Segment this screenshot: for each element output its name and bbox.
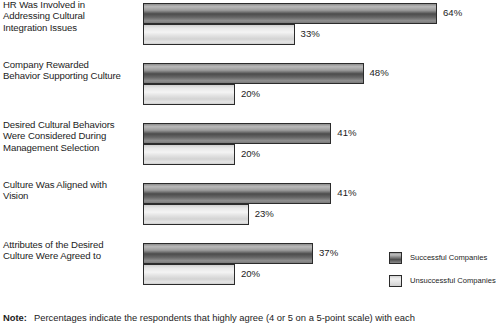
category-label: HR Was Involved inAddressing CulturalInt…	[3, 0, 139, 33]
bar-value-label: 23%	[255, 208, 274, 220]
category-label-line: Attributes of the Desired	[3, 239, 139, 250]
legend-label-unsuccessful: Unsuccessful Companies	[410, 275, 496, 286]
bar-successful[interactable]	[143, 63, 364, 84]
bar-value-label: 20%	[241, 268, 260, 280]
category-label-line: Addressing Cultural	[3, 10, 139, 21]
category-group: Desired Cultural BehaviorsWere Considere…	[0, 120, 496, 166]
legend-item-successful[interactable]: Successful Companies	[389, 251, 494, 274]
bar-unsuccessful[interactable]	[143, 24, 295, 45]
bar-value-label: 64%	[443, 7, 462, 19]
legend-label-successful: Successful Companies	[410, 252, 487, 263]
category-label-line: Culture Was Aligned with	[3, 179, 139, 190]
category-label-line: Behavior Supporting Culture	[3, 70, 139, 81]
chart-legend: Successful Companies Unsuccessful Compan…	[389, 251, 494, 297]
bar-unsuccessful[interactable]	[143, 204, 249, 225]
note-text: Percentages indicate the respondents tha…	[34, 312, 415, 323]
bar-successful[interactable]	[143, 3, 437, 24]
category-group: HR Was Involved inAddressing CulturalInt…	[0, 0, 496, 46]
category-label: Company RewardedBehavior Supporting Cult…	[3, 59, 139, 82]
bar-successful[interactable]	[143, 183, 331, 204]
bar-value-label: 20%	[241, 148, 260, 160]
bar-chart-figure: HR Was Involved inAddressing CulturalInt…	[0, 0, 496, 334]
category-label-line: Were Considered During	[3, 130, 139, 141]
bar-value-label: 37%	[319, 247, 338, 259]
bar-value-label: 41%	[337, 127, 356, 139]
bar-successful[interactable]	[143, 123, 331, 144]
category-label-line: Company Rewarded	[3, 59, 139, 70]
category-label: Attributes of the DesiredCulture Were Ag…	[3, 239, 139, 262]
bar-successful[interactable]	[143, 243, 313, 264]
legend-swatch-unsuccessful-icon	[389, 275, 402, 287]
category-label: Desired Cultural BehaviorsWere Considere…	[3, 119, 139, 153]
category-label-line: Desired Cultural Behaviors	[3, 119, 139, 130]
category-label-line: Management Selection	[3, 142, 139, 153]
bar-unsuccessful[interactable]	[143, 264, 235, 285]
bar-value-label: 41%	[337, 187, 356, 199]
category-group: Company RewardedBehavior Supporting Cult…	[0, 60, 496, 106]
bar-value-label: 33%	[301, 28, 320, 40]
category-label-line: Culture Were Agreed to	[3, 250, 139, 261]
category-label: Culture Was Aligned withVision	[3, 179, 139, 202]
category-label-line: Vision	[3, 190, 139, 201]
bar-unsuccessful[interactable]	[143, 84, 235, 105]
legend-item-unsuccessful[interactable]: Unsuccessful Companies	[389, 274, 494, 297]
category-label-line: HR Was Involved in	[3, 0, 139, 10]
bar-value-label: 48%	[370, 67, 389, 79]
bar-value-label: 20%	[241, 88, 260, 100]
legend-swatch-successful-icon	[389, 252, 402, 264]
bar-unsuccessful[interactable]	[143, 144, 235, 165]
note-label: Note:	[3, 312, 27, 323]
chart-note: Note:Percentages indicate the respondent…	[3, 312, 493, 324]
category-group: Culture Was Aligned withVision41%23%	[0, 180, 496, 226]
category-label-line: Integration Issues	[3, 22, 139, 33]
